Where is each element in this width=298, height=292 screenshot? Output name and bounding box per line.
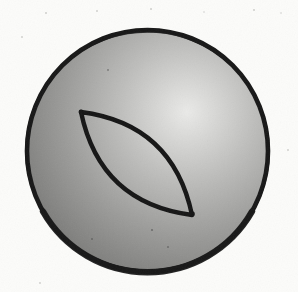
figure-svg bbox=[0, 0, 298, 292]
paper-grain-overlay bbox=[0, 0, 298, 292]
sphere-lune-figure bbox=[0, 0, 298, 292]
